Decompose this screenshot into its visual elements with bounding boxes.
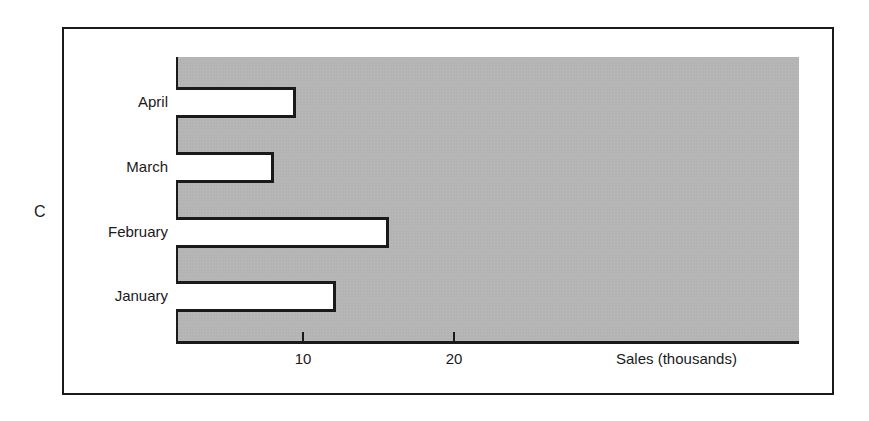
x-tick-10 bbox=[302, 332, 304, 342]
panel-letter: C bbox=[34, 203, 46, 221]
x-axis-label: Sales (thousands) bbox=[616, 350, 737, 367]
bar-january bbox=[176, 281, 336, 312]
bar-february bbox=[176, 217, 389, 248]
x-tick-20 bbox=[453, 332, 455, 342]
category-label-april: April bbox=[58, 93, 168, 110]
category-label-january: January bbox=[58, 287, 168, 304]
category-label-february: February bbox=[58, 223, 168, 240]
x-tick-label-10: 10 bbox=[283, 350, 323, 367]
bar-april bbox=[176, 87, 296, 118]
bar-march bbox=[176, 152, 274, 183]
category-label-march: March bbox=[58, 158, 168, 175]
x-tick-label-20: 20 bbox=[434, 350, 474, 367]
